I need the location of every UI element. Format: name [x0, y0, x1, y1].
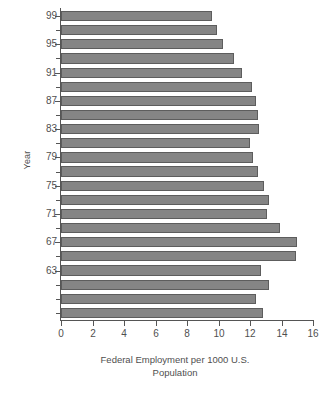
- y-axis-tick-label: 83: [17, 124, 57, 134]
- bar: [61, 195, 269, 205]
- bar: [61, 265, 261, 275]
- x-axis-tick-label: 2: [81, 328, 105, 339]
- bar-chart: Year 99959187837975716763 0246810121416 …: [0, 0, 333, 394]
- y-axis-tick-minor: [56, 143, 60, 144]
- x-axis-tick-label: 14: [270, 328, 294, 339]
- bar-row: [61, 265, 313, 275]
- bar: [61, 138, 250, 148]
- bar: [61, 39, 223, 49]
- x-axis-tick: [124, 321, 125, 326]
- y-axis-tick-label: 87: [17, 96, 57, 106]
- y-axis-tick-minor: [56, 228, 60, 229]
- y-axis-tick-minor: [56, 30, 60, 31]
- bar-row: [61, 152, 313, 162]
- y-axis-tick-minor: [56, 58, 60, 59]
- x-axis-tick-label: 12: [238, 328, 262, 339]
- x-axis-tick: [61, 321, 62, 326]
- bar-row: [61, 82, 313, 92]
- bar-row: [61, 96, 313, 106]
- y-axis-tick-minor: [56, 87, 60, 88]
- y-axis-tick-minor: [56, 172, 60, 173]
- bar: [61, 181, 264, 191]
- bar: [61, 82, 252, 92]
- x-axis-tick: [156, 321, 157, 326]
- y-axis-tick-minor: [56, 313, 60, 314]
- y-axis-tick-label: 71: [17, 209, 57, 219]
- x-axis-tick: [250, 321, 251, 326]
- bar-row: [61, 11, 313, 21]
- x-axis-tick-label: 10: [207, 328, 231, 339]
- y-axis-tick-label: 63: [17, 266, 57, 276]
- bar-row: [61, 53, 313, 63]
- bar-row: [61, 308, 313, 318]
- y-axis-tick-label: 75: [17, 181, 57, 191]
- y-axis-tick-minor: [56, 200, 60, 201]
- x-axis-tick-label: 8: [175, 328, 199, 339]
- x-axis-tick-label: 16: [301, 328, 325, 339]
- x-axis-tick: [282, 321, 283, 326]
- bar: [61, 237, 297, 247]
- y-axis-tick-label: 79: [17, 152, 57, 162]
- bar: [61, 251, 296, 261]
- bar-row: [61, 124, 313, 134]
- bar: [61, 110, 258, 120]
- x-axis-title: Federal Employment per 1000 U.S. Populat…: [40, 353, 310, 379]
- y-axis-tick-label: 91: [17, 68, 57, 78]
- x-axis-tick: [219, 321, 220, 326]
- x-axis-tick-label: 4: [112, 328, 136, 339]
- x-axis-tick-label: 6: [144, 328, 168, 339]
- x-axis-tick: [187, 321, 188, 326]
- x-axis-tick-label: 0: [49, 328, 73, 339]
- bar-row: [61, 209, 313, 219]
- y-axis-tick-label: 99: [17, 11, 57, 21]
- bar-row: [61, 237, 313, 247]
- bar-row: [61, 39, 313, 49]
- bar-row: [61, 251, 313, 261]
- bar-row: [61, 195, 313, 205]
- bar: [61, 223, 280, 233]
- bar-row: [61, 25, 313, 35]
- bar: [61, 294, 256, 304]
- bar: [61, 166, 258, 176]
- bar-row: [61, 110, 313, 120]
- bar: [61, 68, 242, 78]
- bar: [61, 280, 269, 290]
- y-axis-tick-label: 67: [17, 237, 57, 247]
- bar-row: [61, 294, 313, 304]
- y-axis-tick-minor: [56, 285, 60, 286]
- y-axis-tick-minor: [56, 299, 60, 300]
- y-axis-tick-minor: [56, 256, 60, 257]
- bar-row: [61, 138, 313, 148]
- bar-row: [61, 68, 313, 78]
- bar: [61, 25, 217, 35]
- bar: [61, 209, 267, 219]
- bar: [61, 152, 253, 162]
- y-axis-tick-minor: [56, 115, 60, 116]
- plot-area: [61, 9, 313, 320]
- bar: [61, 124, 259, 134]
- bar: [61, 96, 256, 106]
- x-axis-title-line2: Population: [40, 366, 310, 379]
- y-axis-tick-label: 95: [17, 39, 57, 49]
- bar-row: [61, 223, 313, 233]
- bar: [61, 53, 234, 63]
- x-axis-title-line1: Federal Employment per 1000 U.S.: [101, 354, 250, 365]
- x-axis-tick: [93, 321, 94, 326]
- x-axis-tick: [313, 321, 314, 326]
- bar-row: [61, 181, 313, 191]
- bar-row: [61, 280, 313, 290]
- bar-row: [61, 166, 313, 176]
- bar: [61, 11, 212, 21]
- bar: [61, 308, 263, 318]
